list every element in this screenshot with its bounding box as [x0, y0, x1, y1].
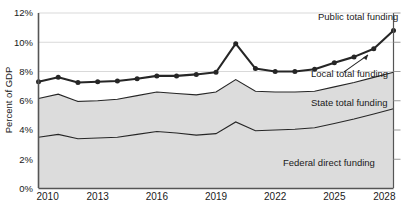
y-tick-label: 0% — [19, 183, 33, 194]
y-tick-label: 12% — [14, 7, 34, 18]
y-axis-title: Percent of GDP — [3, 67, 14, 134]
data-point-marker — [115, 79, 120, 84]
y-tick-label: 2% — [19, 154, 33, 165]
data-point-marker — [75, 80, 80, 85]
y-tick-label: 10% — [14, 37, 34, 48]
x-tick-label: 2022 — [264, 191, 287, 202]
data-point-marker — [194, 72, 199, 77]
annotation-public-total-funding: Public total funding — [318, 11, 398, 22]
data-point-marker — [371, 46, 376, 51]
x-tick-label: 2010 — [37, 191, 60, 202]
x-tick-label: 2025 — [323, 191, 346, 202]
data-point-marker — [292, 69, 297, 74]
data-point-marker — [95, 79, 100, 84]
data-point-marker — [233, 41, 238, 46]
chart-container: 0%2%4%6%8%10%12% 20102013201620192022202… — [0, 0, 416, 223]
data-point-marker — [154, 73, 159, 78]
data-point-marker — [352, 54, 357, 59]
data-point-marker — [214, 70, 219, 75]
annotation-state-total-funding: State total funding — [311, 97, 388, 108]
x-tick-label: 2016 — [146, 191, 169, 202]
data-point-marker — [174, 73, 179, 78]
annotation-federal-direct-funding: Federal direct funding — [283, 157, 375, 168]
data-point-marker — [135, 76, 140, 81]
y-tick-label: 4% — [19, 124, 33, 135]
x-tick-label: 2013 — [87, 191, 110, 202]
data-point-marker — [56, 75, 61, 80]
x-axis-tick-labels: 2010201320162019202220252028 — [37, 191, 396, 202]
x-tick-label: 2028 — [373, 191, 396, 202]
y-tick-label: 6% — [19, 95, 33, 106]
y-tick-label: 8% — [19, 66, 33, 77]
data-point-marker — [253, 66, 258, 71]
x-tick-label: 2019 — [205, 191, 228, 202]
annotation-local-total-funding: Local total funding — [311, 68, 388, 79]
stacked-area-chart: 0%2%4%6%8%10%12% 20102013201620192022202… — [0, 0, 416, 223]
data-point-marker — [332, 60, 337, 65]
data-point-marker — [273, 69, 278, 74]
